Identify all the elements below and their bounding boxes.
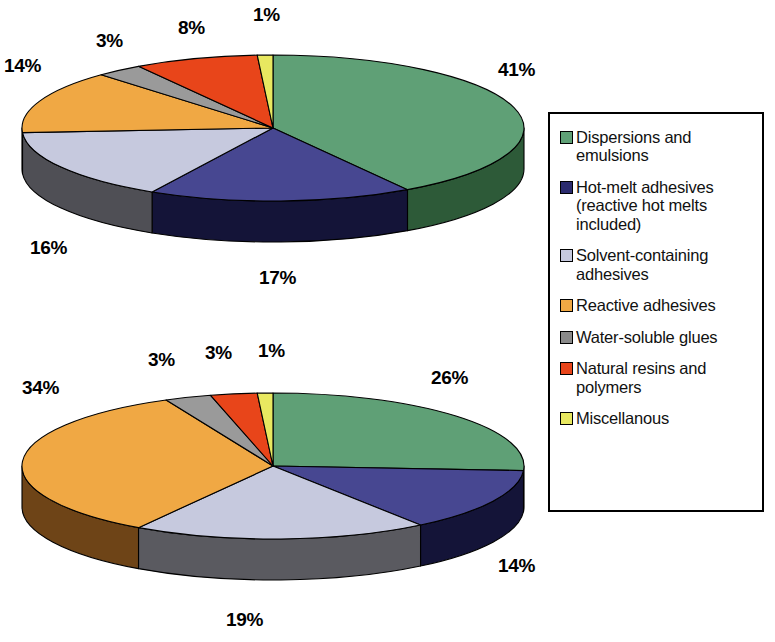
legend-item-4: Water-soluble glues (560, 328, 752, 346)
chart-legend: Dispersions and emulsionsHot-melt adhesi… (548, 112, 764, 512)
pie-bottom-percent-label-6: 1% (258, 341, 285, 360)
legend-swatch-water-soluble-icon (560, 331, 573, 344)
pie-top-percent-label-6: 1% (253, 5, 280, 24)
legend-swatch-dispersions-icon (560, 131, 573, 144)
legend-item-label: Dispersions and emulsions (576, 128, 752, 165)
pie-top-percent-label-2: 16% (30, 238, 67, 257)
pie-bottom-percent-label-0: 26% (431, 368, 468, 387)
legend-item-label: Hot-melt adhesives (reactive hot melts i… (576, 178, 752, 233)
pie-bottom-percent-label-4: 3% (148, 350, 175, 369)
legend-swatch-reactive-icon (560, 299, 573, 312)
pie-top-percent-label-1: 17% (259, 268, 296, 287)
legend-item-label: Water-soluble glues (576, 328, 717, 346)
legend-item-label: Miscellanous (576, 409, 669, 427)
legend-item-6: Miscellanous (560, 409, 752, 427)
pie-bottom-percent-label-3: 34% (22, 378, 59, 397)
legend-swatch-solvent-icon (560, 249, 573, 262)
pie-top-percent-label-4: 3% (96, 31, 123, 50)
legend-swatch-natural-resins-icon (560, 362, 573, 375)
pie-bottom-percent-label-2: 19% (226, 610, 263, 629)
legend-item-label: Solvent-containing adhesives (576, 246, 752, 283)
chart-canvas: 41%17%16%14%3%8%1% 26%14%19%34%3%3%1% Di… (0, 0, 775, 642)
legend-swatch-miscellanous-icon (560, 412, 573, 425)
pie-top-percent-label-3: 14% (4, 56, 41, 75)
legend-item-label: Reactive adhesives (576, 296, 715, 314)
pie-bottom-percent-label-5: 3% (205, 343, 232, 362)
pie-top-percent-label-0: 41% (498, 60, 535, 79)
legend-swatch-hot-melt-icon (560, 181, 573, 194)
legend-item-3: Reactive adhesives (560, 296, 752, 314)
pie-bottom-percent-label-1: 14% (498, 556, 535, 575)
legend-item-2: Solvent-containing adhesives (560, 246, 752, 283)
pie-top-percent-label-5: 8% (178, 18, 205, 37)
legend-item-5: Natural resins and polymers (560, 359, 752, 396)
legend-item-label: Natural resins and polymers (576, 359, 752, 396)
legend-item-0: Dispersions and emulsions (560, 128, 752, 165)
legend-item-1: Hot-melt adhesives (reactive hot melts i… (560, 178, 752, 233)
